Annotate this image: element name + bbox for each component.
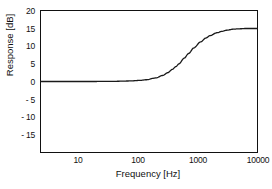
y-axis-label: Response [dB] (4, 0, 15, 100)
x-tick-label: 1000 (176, 156, 220, 165)
y-tick-label: - 15 (5, 131, 35, 140)
x-tick-label: 10 (56, 156, 100, 165)
x-axis-label: Frequency [Hz] (0, 168, 272, 179)
y-tick-label: - 10 (5, 113, 35, 122)
chart-figure: 20 15 10 5 0 - 5 - 10 - 15 10 100 1000 1… (0, 0, 272, 189)
x-tick-label: 10000 (236, 156, 272, 165)
y-axis-label-wrap: Response [dB] (4, 0, 18, 100)
x-tick-label: 100 (116, 156, 160, 165)
plot-area (40, 10, 258, 153)
